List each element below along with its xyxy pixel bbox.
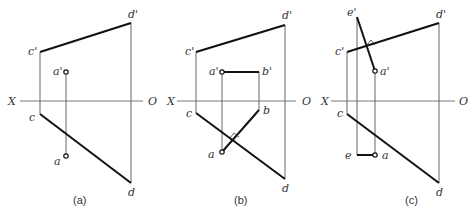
label-b: b [263,104,270,117]
axis-label-x: X [166,95,176,108]
line-cd-top-view [196,113,285,179]
label-a: a [208,148,215,161]
label-e: e [345,149,352,162]
label-c: c [29,111,35,124]
line-cd-front-view [196,25,285,52]
label-d: d [436,186,443,199]
axis-label-o: O [148,95,157,108]
caption-b: (b) [234,194,247,206]
label-d: d [282,182,289,195]
label-a-prime: a' [380,65,390,78]
axis-label-o: O [302,95,311,108]
panel-b: X O c' d' a' b' c b a d (b) [166,9,311,206]
orthographic-projection-figure: X O c' d' a' c d a (a) X O c' d' [0,0,468,217]
axis-label-x: X [7,95,17,108]
label-a: a [54,155,61,168]
panel-c: X O e' c' d' a' c e a d (c) [320,6,468,206]
point-a-prime [220,70,224,74]
label-a-prime: a' [209,65,219,78]
point-a [64,154,68,158]
point-a [220,150,224,154]
point-a [373,153,377,157]
point-a-prime [64,70,68,74]
caption-a: (a) [73,194,86,206]
line-cd-front-view [40,23,131,52]
label-b-prime: b' [262,65,272,78]
caption-c: (c) [405,194,418,206]
label-d-prime: d' [128,8,138,21]
panel-a: X O c' d' a' c d a (a) [7,8,157,206]
label-c-prime: c' [185,45,194,58]
label-d-prime: d' [436,8,446,21]
line-cd-top-view [40,114,131,183]
label-c-prime: c' [28,45,37,58]
label-d-prime: d' [282,9,292,22]
label-a-prime: a' [53,65,63,78]
point-a-prime [373,69,377,73]
axis-label-x: X [320,95,330,108]
label-c: c [186,107,192,120]
axis-label-o: O [459,95,468,108]
label-c: c [337,107,343,120]
line-cd-top-view [347,114,439,183]
label-a: a [382,149,389,162]
label-c-prime: c' [335,45,344,58]
label-e-prime: e' [347,6,357,19]
label-d: d [128,186,135,199]
